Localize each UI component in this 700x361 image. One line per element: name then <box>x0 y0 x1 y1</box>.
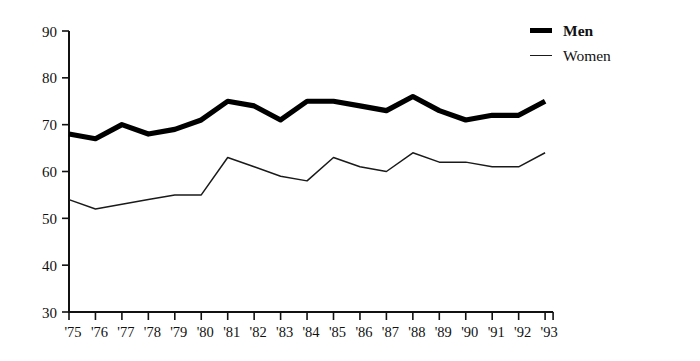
x-tick-label: '92 <box>514 324 531 340</box>
series-line-women <box>69 153 545 209</box>
legend-item-men: Men <box>530 18 680 43</box>
x-tick-label: '79 <box>170 324 187 340</box>
x-tick-label: '84 <box>302 324 320 340</box>
x-tick-label: '89 <box>435 324 452 340</box>
x-tick-label: '90 <box>461 324 478 340</box>
legend-line-women-icon <box>530 55 552 56</box>
x-tick-label: '77 <box>117 324 134 340</box>
x-tick-label: '85 <box>329 324 346 340</box>
chart-legend: Men Women <box>530 18 680 68</box>
y-tick-label: 70 <box>42 117 57 133</box>
chart-series <box>69 97 545 209</box>
x-tick-label: '82 <box>250 324 267 340</box>
x-tick-label: '75 <box>64 324 81 340</box>
y-tick-label: 40 <box>42 258 57 274</box>
y-tick-label: 50 <box>42 211 57 227</box>
chart-axes <box>62 31 553 320</box>
y-tick-label: 80 <box>42 70 57 86</box>
x-tick-label: '93 <box>541 324 558 340</box>
x-tick-label: '87 <box>382 324 399 340</box>
y-axis-tick-labels: 30405060708090 <box>42 24 57 321</box>
legend-label-women: Women <box>563 47 611 65</box>
y-tick-label: 90 <box>42 24 57 40</box>
series-line-men <box>69 97 545 139</box>
legend-label-men: Men <box>563 22 593 40</box>
x-tick-label: '76 <box>91 324 108 340</box>
x-axis-tick-labels: '75'76'77'78'79'80'81'82'83'84'85'86'87'… <box>64 324 557 340</box>
x-tick-label: '91 <box>488 324 505 340</box>
line-chart: 30405060708090 '75'76'77'78'79'80'81'82'… <box>0 0 700 361</box>
x-tick-label: '81 <box>223 324 240 340</box>
x-tick-label: '88 <box>408 324 425 340</box>
x-tick-label: '83 <box>276 324 293 340</box>
x-tick-label: '86 <box>355 324 372 340</box>
y-tick-label: 60 <box>42 164 57 180</box>
x-tick-label: '78 <box>144 324 161 340</box>
x-tick-label: '80 <box>197 324 214 340</box>
legend-line-men-icon <box>530 28 552 33</box>
legend-item-women: Women <box>530 43 680 68</box>
y-tick-label: 30 <box>42 305 57 321</box>
